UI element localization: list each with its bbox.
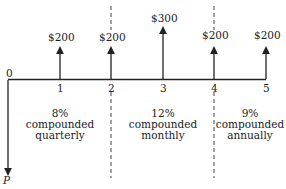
segment-2-note: 12% compounded monthly bbox=[128, 108, 198, 141]
segment-2-line3: monthly bbox=[128, 130, 198, 141]
segment-1-note: 8% compounded quarterly bbox=[25, 108, 95, 141]
tick-label-1: 1 bbox=[57, 82, 64, 94]
present-value-label: P bbox=[3, 174, 10, 186]
cash-amount-5: $200 bbox=[254, 29, 281, 41]
tick-label-5: 5 bbox=[263, 82, 270, 94]
tick-label-2: 2 bbox=[108, 82, 115, 94]
cash-amount-3: $300 bbox=[151, 12, 178, 24]
tick-label-3: 3 bbox=[160, 82, 167, 94]
tick-label-4: 4 bbox=[211, 82, 218, 94]
segment-3-note: 9% compounded annually bbox=[215, 108, 285, 141]
timeline-graphic bbox=[0, 0, 286, 189]
cash-amount-4: $200 bbox=[202, 29, 229, 41]
segment-1-line3: quarterly bbox=[25, 130, 95, 141]
cash-amount-2: $200 bbox=[99, 31, 126, 43]
cash-amount-1: $200 bbox=[48, 31, 75, 43]
segment-3-line3: annually bbox=[215, 130, 285, 141]
tick-label-0: 0 bbox=[6, 67, 13, 79]
